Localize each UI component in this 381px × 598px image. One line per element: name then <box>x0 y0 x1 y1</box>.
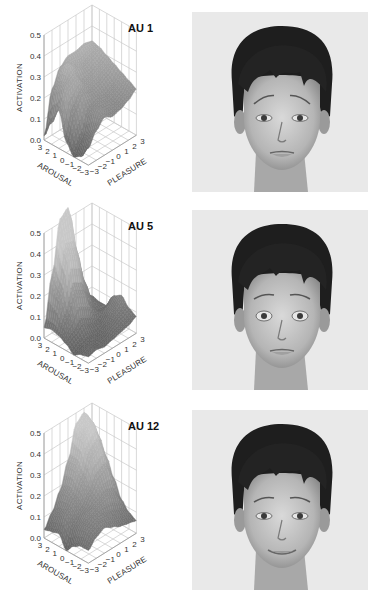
svg-text:−3: −3 <box>80 366 90 375</box>
svg-text:3: 3 <box>140 535 145 544</box>
svg-text:1: 1 <box>53 151 58 160</box>
svg-text:3: 3 <box>38 143 43 152</box>
face-illustration <box>192 410 368 590</box>
svg-text:1: 1 <box>53 549 58 558</box>
svg-text:2: 2 <box>132 340 137 349</box>
svg-text:−1: −1 <box>106 355 116 364</box>
surface-mesh <box>44 41 136 158</box>
surface-plot-au5: 0.00.10.20.30.40.53210−1−2−3−3−2−10123AC… <box>0 198 190 396</box>
avatar-face-image <box>192 410 368 590</box>
svg-text:2: 2 <box>132 142 137 151</box>
surface-plot-au12: 0.00.10.20.30.40.53210−1−2−3−3−2−10123AC… <box>0 398 190 596</box>
svg-text:0: 0 <box>116 350 121 359</box>
svg-text:0: 0 <box>116 550 121 559</box>
figure-row-au12: 0.00.10.20.30.40.53210−1−2−3−3−2−10123AC… <box>0 398 381 596</box>
svg-text:1: 1 <box>53 349 58 358</box>
svg-text:0.2: 0.2 <box>30 492 42 501</box>
svg-text:1: 1 <box>124 545 129 554</box>
svg-text:3: 3 <box>38 541 43 550</box>
svg-text:0.2: 0.2 <box>30 94 42 103</box>
svg-text:−3: −3 <box>80 168 90 177</box>
svg-text:0.5: 0.5 <box>30 429 42 438</box>
svg-text:2: 2 <box>45 545 50 554</box>
svg-text:0.3: 0.3 <box>30 271 42 280</box>
face-illustration <box>192 210 368 390</box>
svg-text:3: 3 <box>140 335 145 344</box>
surface-mesh <box>44 412 136 550</box>
face-illustration <box>192 12 368 192</box>
z-axis-label: ACTIVATION <box>15 261 24 310</box>
surface-plot-au1: 0.00.10.20.30.40.53210−1−2−3−3−2−10123AC… <box>0 0 190 198</box>
svg-text:0.1: 0.1 <box>30 513 42 522</box>
surface-plot-svg: 0.00.10.20.30.40.53210−1−2−3−3−2−10123AC… <box>0 398 190 596</box>
svg-text:2: 2 <box>132 540 137 549</box>
svg-text:1: 1 <box>124 345 129 354</box>
svg-text:0: 0 <box>116 152 121 161</box>
svg-text:3: 3 <box>140 137 145 146</box>
svg-text:−1: −1 <box>106 157 116 166</box>
svg-text:0.3: 0.3 <box>30 73 42 82</box>
surface-plot-svg: 0.00.10.20.30.40.53210−1−2−3−3−2−10123AC… <box>0 0 190 198</box>
z-axis-label: ACTIVATION <box>15 63 24 112</box>
plot-title: AU 1 <box>128 22 153 34</box>
svg-text:0.4: 0.4 <box>30 450 42 459</box>
svg-text:0.1: 0.1 <box>30 115 42 124</box>
svg-text:1: 1 <box>124 147 129 156</box>
avatar-face-image <box>192 12 368 192</box>
z-axis-label: ACTIVATION <box>15 461 24 510</box>
svg-text:0.2: 0.2 <box>30 292 42 301</box>
svg-text:0.3: 0.3 <box>30 471 42 480</box>
svg-text:0.4: 0.4 <box>30 52 42 61</box>
plot-title: AU 5 <box>128 220 153 232</box>
svg-text:0.5: 0.5 <box>30 31 42 40</box>
svg-text:−1: −1 <box>106 555 116 564</box>
surface-plot-svg: 0.00.10.20.30.40.53210−1−2−3−3−2−10123AC… <box>0 198 190 396</box>
avatar-face-image <box>192 210 368 390</box>
svg-text:3: 3 <box>38 341 43 350</box>
svg-text:0.5: 0.5 <box>30 229 42 238</box>
svg-text:2: 2 <box>45 345 50 354</box>
svg-text:0.4: 0.4 <box>30 250 42 259</box>
figure-row-au1: 0.00.10.20.30.40.53210−1−2−3−3−2−10123AC… <box>0 0 381 198</box>
figure-row-au5: 0.00.10.20.30.40.53210−1−2−3−3−2−10123AC… <box>0 198 381 396</box>
svg-text:0.1: 0.1 <box>30 313 42 322</box>
plot-title: AU 12 <box>128 420 159 432</box>
svg-text:−3: −3 <box>80 566 90 575</box>
svg-text:2: 2 <box>45 147 50 156</box>
